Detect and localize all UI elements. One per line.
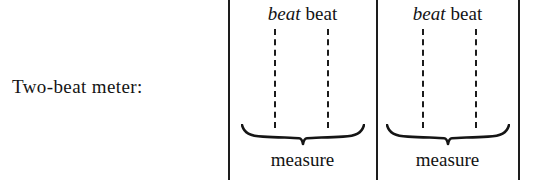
beat-label-row: beatbeat <box>229 2 376 26</box>
measure-group: beatbeat measure <box>229 0 376 180</box>
beat-label-first: beat <box>268 3 301 24</box>
brace-icon <box>386 124 510 146</box>
two-beat-meter-figure: Two-beat meter: beatbeat measure beatbea… <box>0 0 544 180</box>
beat-stem-first <box>422 29 424 128</box>
beat-label-row: beatbeat <box>377 2 518 26</box>
measure-word: measure <box>377 148 518 172</box>
measure-word: measure <box>229 148 376 172</box>
measure-brace <box>241 124 365 146</box>
measure-group: beatbeat measure <box>377 0 518 180</box>
beat-stem-second <box>327 29 329 128</box>
beat-label-first: beat <box>413 3 446 24</box>
figure-caption: Two-beat meter: <box>12 76 143 98</box>
beat-label-second: beat <box>306 3 338 24</box>
beat-label-second: beat <box>451 3 483 24</box>
measure-brace <box>386 124 510 146</box>
brace-icon <box>241 124 365 146</box>
beat-stem-first <box>274 29 276 128</box>
beat-stem-second <box>475 29 477 128</box>
barline-right <box>518 0 520 180</box>
